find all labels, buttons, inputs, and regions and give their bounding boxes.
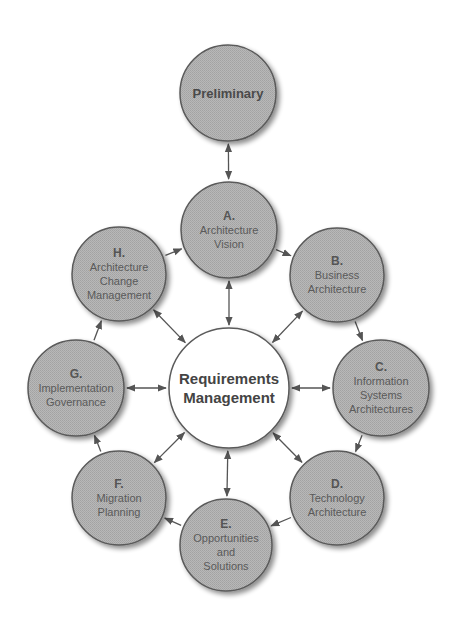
phase-label-line: Change	[100, 275, 139, 287]
edge-h-to-requirements-management	[154, 310, 186, 343]
edge-g-to-h	[94, 321, 101, 340]
phase-label-line: Systems	[360, 389, 403, 401]
center-label-line1: Requirements	[179, 370, 279, 387]
center-label-line2: Management	[183, 389, 275, 406]
phase-label-line: Architecture	[308, 506, 367, 518]
phase-label-line: Migration	[96, 492, 141, 504]
edge-d-to-e	[271, 517, 291, 525]
phase-node-c: C.InformationSystemsArchitectures	[333, 340, 429, 436]
phase-label-line: Architecture	[90, 261, 149, 273]
edge-h-to-a	[165, 249, 181, 255]
phase-letter: G.	[70, 367, 83, 381]
phase-label-line: Implementation	[38, 382, 113, 394]
edge-b-to-c	[355, 322, 362, 341]
phase-label-line: Opportunities	[193, 532, 259, 544]
edge-f-to-g	[95, 435, 101, 451]
phase-letter: F.	[114, 477, 123, 491]
phase-node-g: G.ImplementationGovernance	[28, 340, 124, 436]
phase-label-line: Information	[353, 375, 408, 387]
phase-label-line: Architecture	[308, 283, 367, 295]
edge-e-to-requirements-management	[227, 451, 228, 496]
phase-letter: H.	[113, 246, 125, 260]
phase-node-f: F.MigrationPlanning	[72, 451, 166, 545]
phase-node-b: B.BusinessArchitecture	[290, 228, 384, 322]
node-preliminary: Preliminary	[180, 45, 276, 141]
edge-e-to-f	[165, 518, 181, 525]
phase-letter: C.	[375, 360, 387, 374]
node-requirements-management: RequirementsManagement	[169, 328, 289, 448]
phase-node-h: H.ArchitectureChangeManagement	[72, 227, 166, 321]
phase-node-e: E.OpportunitiesandSolutions	[180, 499, 272, 591]
phase-label-line: Governance	[46, 396, 106, 408]
edge-b-to-requirements-management	[273, 311, 303, 342]
phase-label-line: Solutions	[203, 560, 249, 572]
phase-node-a: A.ArchitectureVision	[181, 182, 277, 278]
adm-cycle-diagram: PreliminaryA.ArchitectureVisionB.Busines…	[0, 0, 455, 628]
phase-label-line: and	[217, 546, 235, 558]
phase-letter: A.	[223, 209, 235, 223]
phase-letter: E.	[220, 517, 231, 531]
phase-label-line: Management	[87, 289, 151, 301]
phase-label-line: Vision	[214, 238, 244, 250]
edge-f-to-requirements-management	[154, 433, 184, 463]
edge-c-to-d	[356, 435, 362, 451]
phase-label-line: Architecture	[200, 224, 259, 236]
phase-label-line: Architectures	[349, 403, 414, 415]
phase-label-line: Business	[315, 269, 360, 281]
phase-label-line: Planning	[98, 506, 141, 518]
edge-d-to-requirements-management	[273, 433, 302, 462]
phase-node-d: D.TechnologyArchitecture	[290, 451, 384, 545]
phase-letter: D.	[331, 477, 343, 491]
phase-letter: B.	[331, 254, 343, 268]
phase-label-line: Technology	[309, 492, 365, 504]
edge-a-to-b	[276, 250, 291, 256]
preliminary-label: Preliminary	[193, 86, 265, 101]
